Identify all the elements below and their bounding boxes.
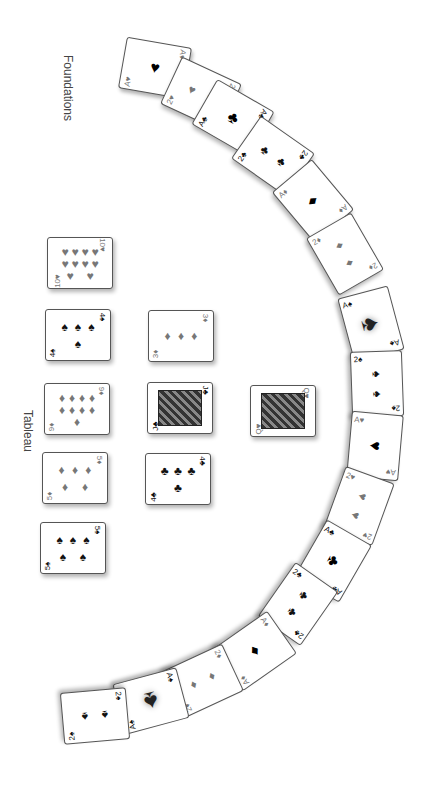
card-index: A♦ <box>277 188 289 200</box>
card-pips: ♠♠♠♠ <box>58 318 98 352</box>
suit-icon: ♣ <box>284 603 301 621</box>
suit-icon: ♦ <box>78 481 91 493</box>
suit-icon: ♥ <box>65 270 75 282</box>
card-index: A♥ <box>385 467 396 476</box>
suit-icon: ♥ <box>348 507 364 523</box>
suit-icon: ♠ <box>71 321 84 333</box>
suit-icon: ♠ <box>71 338 84 350</box>
card-pips: ♦♦♦ <box>161 319 201 353</box>
card-pips: ♦♦♦♦♦♦♦♦♦ <box>57 392 97 426</box>
suit-icon: ♣ <box>295 587 312 605</box>
card-index: 3♦ <box>152 350 160 359</box>
suit-icon: ♥ <box>183 82 200 98</box>
card-pips: ♥♥♥♥♥♥♥♥♥♥ <box>60 246 100 280</box>
face-card-art <box>158 390 202 426</box>
card-index: 4♣ <box>198 456 206 466</box>
card-index: 2♥ <box>362 530 373 541</box>
suit-icon: ♦ <box>55 464 68 476</box>
card-index: A♦ <box>336 202 348 214</box>
tableau-card[interactable]: Q♥Q♥ <box>250 385 316 437</box>
suit-icon: ♦ <box>342 254 359 271</box>
suit-icon: ♠ <box>371 387 383 401</box>
suit-icon: ♦ <box>246 641 263 660</box>
tableau-card[interactable]: 4♠4♠♠♠♠♠ <box>45 309 111 361</box>
suit-icon: ♦ <box>174 330 187 342</box>
card-pips: ♠♠ <box>74 697 117 734</box>
card-index: 9♦ <box>98 387 106 396</box>
card-index: A♣ <box>323 525 336 537</box>
suit-icon: ♥ <box>355 488 371 504</box>
suit-icon: ♦ <box>68 464 81 476</box>
card-index: A♥ <box>123 76 133 87</box>
suit-icon: ♦ <box>57 404 67 416</box>
tableau-card[interactable]: 3♦3♦♦♦♦ <box>148 310 214 362</box>
suit-icon: ♣ <box>171 465 184 477</box>
suit-icon: ♠ <box>98 709 112 722</box>
suit-icon: ♦ <box>161 330 174 342</box>
card-pips: ♦♦♦♦♦ <box>55 461 95 495</box>
card-index: 4♠ <box>49 349 57 358</box>
card-index: 9♦ <box>48 423 56 432</box>
tableau-label: Tableau <box>21 410 35 452</box>
suit-icon: ♣ <box>158 465 171 477</box>
tableau-card[interactable]: 4♣4♣♣♣♣♣ <box>145 453 211 505</box>
tableau-card[interactable]: 5♠5♠♠♠♠♠♠ <box>40 522 106 574</box>
suit-icon: ♦ <box>185 677 202 693</box>
suit-icon: ♦ <box>87 404 97 416</box>
card-index: 2♣ <box>293 628 306 640</box>
card-index: A♦ <box>259 616 271 628</box>
suit-icon: ♦ <box>82 464 95 476</box>
tableau-card[interactable]: J♣J♣ <box>147 382 213 434</box>
card-pips: ♦♦ <box>320 228 369 280</box>
suit-icon: ♣ <box>256 142 274 159</box>
card-index: A♠ <box>342 300 353 310</box>
card-index: A♥ <box>354 416 365 425</box>
suit-icon: ♣ <box>224 108 242 129</box>
card-index: 2♠ <box>68 731 77 740</box>
face-card-art <box>261 393 305 429</box>
suit-icon: ♣ <box>323 552 344 570</box>
suit-icon: ♠ <box>85 321 98 333</box>
card-pips: ♠♠♠♠♠ <box>53 531 93 565</box>
foundation-card[interactable]: 2♠2♠♠♠ <box>60 687 130 745</box>
card-index: 5♠ <box>44 562 52 571</box>
foundations-label: Foundations <box>61 55 75 121</box>
suit-icon: ♣ <box>185 465 198 477</box>
card-pips: ♥♥ <box>336 481 382 530</box>
suit-icon: ♦ <box>204 669 221 685</box>
suit-icon: ♥ <box>85 270 95 282</box>
suit-icon: ♣ <box>272 153 290 170</box>
suit-icon: ♠ <box>80 534 93 546</box>
suit-icon: ♠ <box>140 684 161 718</box>
card-index: 2♠ <box>114 691 123 700</box>
card-pips: ♣♣♣♣ <box>158 462 198 496</box>
suit-icon: ♦ <box>303 192 322 210</box>
card-index: 5♦ <box>46 492 54 501</box>
suit-icon: ♠ <box>354 313 388 334</box>
tableau-card[interactable]: 9♦9♦♦♦♦♦♦♦♦♦♦ <box>44 383 110 435</box>
tableau-card[interactable]: 5♦5♦♦♦♦♦♦ <box>42 452 108 504</box>
suit-icon: ♠ <box>58 321 71 333</box>
tableau-card[interactable]: 10♥10♥♥♥♥♥♥♥♥♥♥♥ <box>47 237 113 289</box>
suit-icon: ♠ <box>78 710 92 723</box>
suit-icon: ♠ <box>53 534 66 546</box>
card-pips: ♣♣ <box>247 131 299 182</box>
foundation-card[interactable]: 2♠2♠♠♠ <box>350 350 404 418</box>
card-index: A♠ <box>389 338 400 348</box>
card-index: 4♠ <box>99 313 107 322</box>
suit-icon: ♦ <box>188 330 201 342</box>
card-pips: ♣♣ <box>273 578 324 630</box>
suit-icon: ♥ <box>149 58 161 77</box>
card-pips: ♦♦ <box>178 657 229 705</box>
card-index: 5♠ <box>94 526 102 535</box>
suit-icon: ♠ <box>56 551 69 563</box>
card-pips: ♠♠ <box>359 363 394 404</box>
suit-icon: ♠ <box>370 367 382 381</box>
card-index: 4♣ <box>150 492 158 502</box>
card-index: A♣ <box>197 115 209 128</box>
suit-icon: ♣ <box>171 482 184 494</box>
suit-icon: ♠ <box>76 551 89 563</box>
suit-icon: ♥ <box>366 440 385 451</box>
suit-icon: ♦ <box>72 416 82 428</box>
suit-icon: ♠ <box>66 534 79 546</box>
